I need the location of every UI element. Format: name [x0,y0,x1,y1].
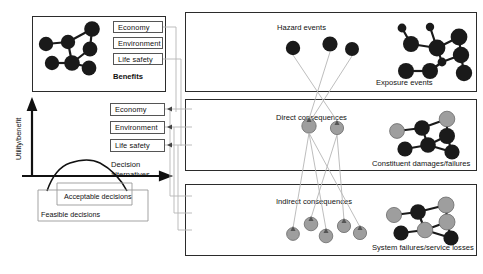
decision-alternatives-label-line1: Decision [111,160,140,169]
direct-consequences-label: Direct consequences [276,113,347,122]
chart-y-axis-label: Utility/benefit [14,118,23,160]
system-failures-label: System failures/service losses [372,243,474,252]
diagram-root: Economy Environment Life safety Benefits… [0,0,483,274]
decision-chip-life-safety[interactable]: Life safety [110,139,165,152]
constituent-damages-label: Constituent damages/failures [372,159,470,168]
hazard-events-panel [185,12,477,92]
feasible-decisions-label: Feasible decisions [41,210,100,219]
chip-arrowheads [167,107,172,148]
decision-alternatives-label-line2: alternatives [111,170,150,179]
decision-chip-economy[interactable]: Economy [110,103,165,116]
acceptable-decisions-label: Acceptable decisions [64,192,132,201]
benefits-chip-environment[interactable]: Environment [113,37,163,49]
exposure-events-label: Exposure events [376,78,433,87]
benefits-chip-life-safety[interactable]: Life safety [113,53,163,65]
hazard-events-label: Hazard events [277,23,326,32]
indirect-consequences-label: Indirect consequences [276,197,352,206]
benefits-caption: Benefits [113,72,143,81]
decision-chip-environment[interactable]: Environment [110,121,165,134]
benefits-chip-economy[interactable]: Economy [113,21,163,33]
